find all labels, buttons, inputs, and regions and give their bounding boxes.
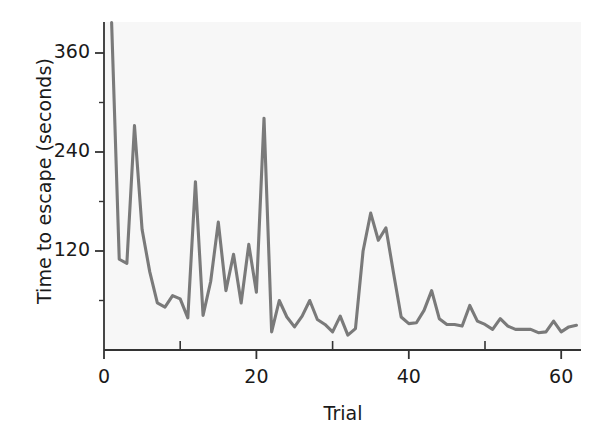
x-tick-label-60: 60 (531, 365, 591, 387)
x-tick-label-0: 0 (74, 365, 134, 387)
chart-figure: Time to escape (seconds) Trial 120240360… (0, 0, 605, 443)
x-tick-label-40: 40 (379, 365, 439, 387)
x-tick-label-20: 20 (226, 365, 286, 387)
x-tick-labels: 0204060 (0, 0, 605, 443)
